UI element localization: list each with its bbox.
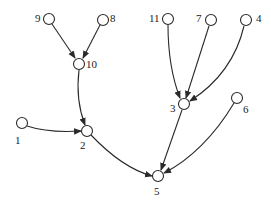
node-2 [82, 126, 93, 137]
edge-3-to-5 [161, 110, 182, 170]
node-3 [179, 99, 190, 110]
node-label-9: 9 [35, 12, 41, 24]
labels-layer: 9810117436125 [15, 12, 262, 197]
node-10 [74, 59, 85, 70]
node-label-10: 10 [86, 58, 98, 70]
node-label-8: 8 [110, 12, 116, 24]
node-11 [163, 14, 174, 25]
node-5 [153, 171, 164, 182]
node-8 [98, 15, 109, 26]
edge-10-to-2 [78, 70, 85, 125]
edge-7-to-3 [186, 26, 209, 98]
edge-1-to-2 [27, 126, 81, 131]
node-9 [44, 14, 55, 25]
edges-layer [27, 24, 244, 176]
node-label-1: 1 [15, 134, 21, 146]
tree-diagram: 9810117436125 [0, 0, 271, 205]
node-1 [17, 118, 28, 129]
node-label-11: 11 [149, 12, 160, 24]
edge-11-to-3 [168, 25, 180, 98]
edge-4-to-3 [190, 26, 244, 101]
node-4 [241, 15, 252, 26]
node-label-7: 7 [196, 12, 202, 24]
node-7 [206, 15, 217, 26]
nodes-layer [17, 14, 252, 182]
node-label-4: 4 [256, 12, 262, 24]
edge-8-to-10 [83, 25, 100, 58]
node-label-3: 3 [170, 102, 176, 114]
node-label-2: 2 [80, 139, 86, 151]
edge-2-to-5 [91, 135, 152, 176]
node-6 [232, 93, 243, 104]
node-label-5: 5 [154, 185, 160, 197]
edge-9-to-10 [52, 24, 75, 58]
node-label-6: 6 [243, 103, 249, 115]
